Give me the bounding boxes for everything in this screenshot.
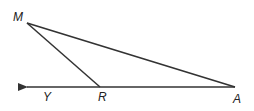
label-R: R (98, 90, 107, 104)
segment-MR (27, 23, 100, 87)
label-Y: Y (43, 90, 52, 104)
label-M: M (13, 10, 23, 24)
triangle-diagram: M Y R A (0, 0, 254, 111)
label-A: A (232, 92, 241, 106)
segment-MA (27, 23, 235, 87)
